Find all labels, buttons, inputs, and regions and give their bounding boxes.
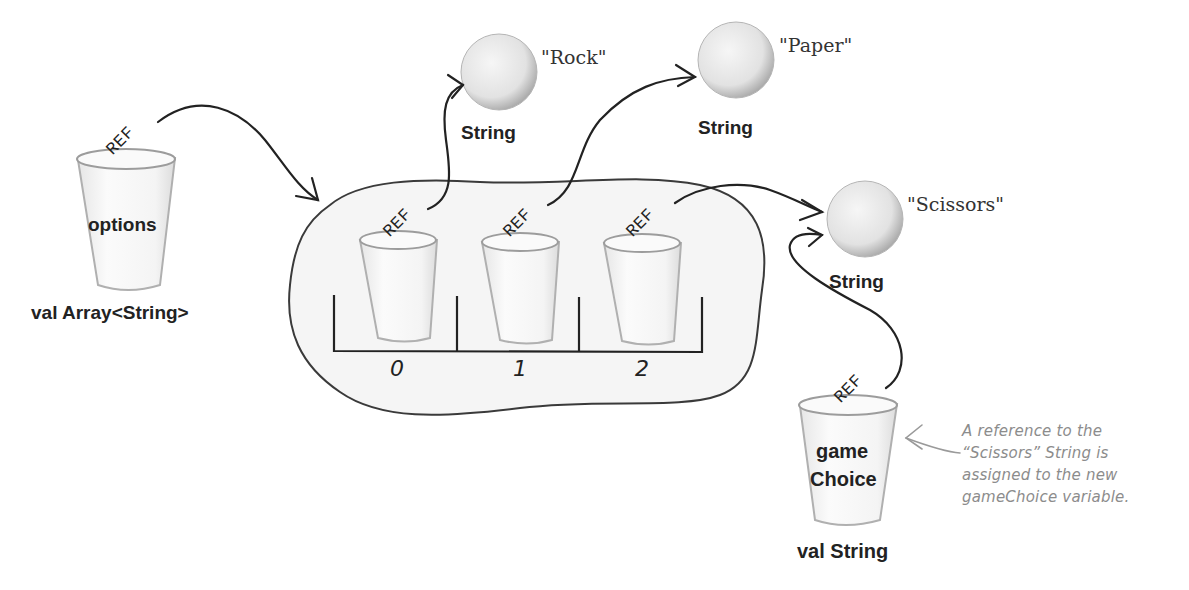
string-object-paper: [698, 22, 774, 98]
game-choice-cup-label-line1: game: [816, 440, 868, 463]
options-cup-label: options: [88, 214, 157, 236]
gamechoice-ref-arrow: [790, 234, 902, 388]
game-choice-type-label: val String: [797, 540, 888, 563]
string-object-rock: [461, 34, 537, 110]
array-index-2: 2: [635, 356, 649, 381]
string-type-scissors: String: [829, 271, 884, 293]
annotation-arrow: [906, 438, 960, 453]
string-value-rock: "Rock": [541, 46, 606, 68]
string-value-scissors: "Scissors": [907, 193, 1004, 215]
annotation-arrowhead: [906, 425, 922, 449]
string-object-scissors: [827, 181, 903, 257]
string-value-paper: "Paper": [779, 34, 852, 56]
string-type-rock: String: [461, 122, 516, 144]
annotation-line-3: assigned to the new: [962, 464, 1129, 486]
array-index-1: 1: [513, 356, 527, 381]
string-type-paper: String: [698, 117, 753, 139]
game-choice-cup-label-line2: Choice: [810, 468, 877, 491]
options-ref-arrow: [158, 106, 318, 200]
arrowhead-paper: [676, 65, 695, 86]
arrowhead-scissors-bottom: [808, 228, 822, 246]
array-index-0: 0: [390, 356, 404, 381]
options-type-label: val Array<String>: [31, 302, 189, 324]
annotation-line-4: gameChoice variable.: [962, 486, 1129, 508]
annotation-note: A reference to the “Scissors” String is …: [962, 420, 1129, 508]
annotation-line-1: A reference to the: [962, 420, 1129, 442]
annotation-line-2: “Scissors” String is: [962, 442, 1129, 464]
